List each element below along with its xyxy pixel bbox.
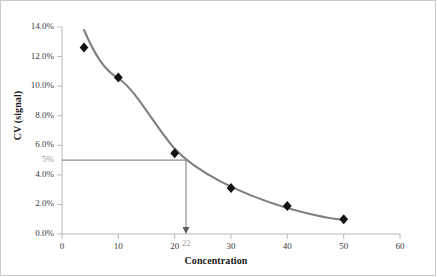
- data-point-markers: [80, 43, 349, 225]
- y-tick-label-4: 4.0%: [6, 169, 54, 179]
- x-tick-label-30: 30: [211, 241, 251, 251]
- y-tick-label-12: 12.0%: [6, 51, 54, 61]
- x-tick-label-60: 60: [380, 241, 420, 251]
- data-point: [339, 214, 348, 224]
- x-tick-label-50: 50: [324, 241, 364, 251]
- x-tick-label-0: 0: [42, 241, 82, 251]
- chart-plot-area: [0, 0, 437, 277]
- y-tick-label-14: 14.0%: [6, 21, 54, 31]
- chart-screenshot: 14.0% 12.0% 10.0% 8.0% 6.0% 4.0% 2.0% 0.…: [0, 0, 437, 277]
- data-point: [80, 43, 89, 53]
- concentration-intercept-label: 22: [182, 238, 191, 248]
- threshold-guide-arrowhead: [183, 227, 190, 234]
- x-tick-label-10: 10: [98, 241, 138, 251]
- x-axis-title: Concentration: [62, 255, 370, 266]
- x-tick-marks: [62, 234, 400, 239]
- cv-threshold-label: 5%: [6, 154, 54, 164]
- y-tick-label-2: 2.0%: [6, 198, 54, 208]
- data-point: [170, 148, 179, 158]
- trend-curve: [84, 30, 345, 220]
- y-axis-title: CV (signal): [12, 76, 23, 156]
- y-tick-label-0: 0.0%: [6, 228, 54, 238]
- y-tick-marks: [57, 27, 62, 234]
- x-tick-label-40: 40: [267, 241, 307, 251]
